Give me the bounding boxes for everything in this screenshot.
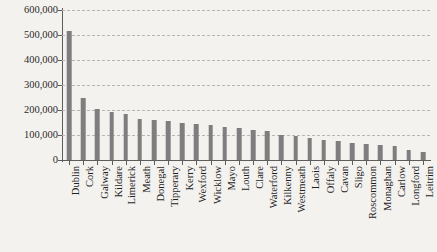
- bar-slot: [104, 10, 118, 160]
- x-axis-tick-mark: [239, 161, 240, 165]
- bar[interactable]: [378, 145, 383, 161]
- x-axis-label-slot: Meath: [133, 166, 147, 252]
- x-axis-label-slot: Cork: [76, 166, 90, 252]
- x-axis-tick-mark: [253, 161, 254, 165]
- bar-slot: [288, 10, 302, 160]
- bar-slot: [90, 10, 104, 160]
- x-axis-tick-mark: [182, 161, 183, 165]
- bar[interactable]: [180, 123, 185, 160]
- x-axis-tick-mark: [211, 161, 212, 165]
- x-axis-label-slot: Tipperary: [161, 166, 175, 252]
- x-axis-label-slot: Sligo: [345, 166, 359, 252]
- bar-series: [62, 10, 430, 160]
- bar-slot: [62, 10, 76, 160]
- y-axis-tick-label: 300,000: [24, 80, 58, 91]
- bar[interactable]: [392, 146, 397, 160]
- x-axis-label-slot: Kerry: [175, 166, 189, 252]
- bar[interactable]: [279, 135, 284, 160]
- bar-slot: [260, 10, 274, 160]
- bar-slot: [133, 10, 147, 160]
- bar-slot: [161, 10, 175, 160]
- bar[interactable]: [336, 141, 341, 160]
- x-axis-tick-mark: [69, 161, 70, 165]
- x-axis-tick-mark: [196, 161, 197, 165]
- bar-slot: [218, 10, 232, 160]
- x-axis-tick-mark: [267, 161, 268, 165]
- bar-slot: [147, 10, 161, 160]
- bar-slot: [345, 10, 359, 160]
- bar[interactable]: [208, 125, 213, 161]
- x-axis-label-slot: Donegal: [147, 166, 161, 252]
- x-axis-label-slot: Kildare: [104, 166, 118, 252]
- x-axis-label-slot: Leitrim: [416, 166, 430, 252]
- bar-slot: [402, 10, 416, 160]
- x-axis-tick-label: Leitrim: [423, 166, 437, 198]
- bar[interactable]: [67, 31, 72, 160]
- bar[interactable]: [109, 112, 114, 160]
- bar-slot: [373, 10, 387, 160]
- x-axis-label-slot: Roscommon: [359, 166, 373, 252]
- bar[interactable]: [81, 98, 86, 161]
- bar-slot: [388, 10, 402, 160]
- bar[interactable]: [265, 131, 270, 160]
- bar-slot: [232, 10, 246, 160]
- x-axis-label-slot: Kilkenny: [274, 166, 288, 252]
- x-axis-tick-mark: [154, 161, 155, 165]
- bar[interactable]: [166, 121, 171, 160]
- x-axis-label-slot: Longford: [402, 166, 416, 252]
- bar[interactable]: [138, 119, 143, 160]
- bar-slot: [175, 10, 189, 160]
- y-axis-ticks: 600,000500,000400,000300,000200,000100,0…: [0, 0, 58, 252]
- bar-slot: [274, 10, 288, 160]
- chart-page: 600,000500,000400,000300,000200,000100,0…: [0, 0, 437, 252]
- bar[interactable]: [293, 136, 298, 160]
- x-axis-tick-mark: [380, 161, 381, 165]
- bar[interactable]: [95, 109, 100, 160]
- bar[interactable]: [152, 120, 157, 160]
- x-axis-label-slot: Westmeath: [288, 166, 302, 252]
- bar-slot: [204, 10, 218, 160]
- x-axis-label-slot: Mayo: [218, 166, 232, 252]
- x-axis-labels: DublinCorkGalwayKildareLimerickMeathDone…: [62, 166, 430, 252]
- y-axis-tick-label: 500,000: [24, 30, 58, 41]
- bar-slot: [331, 10, 345, 160]
- bar[interactable]: [251, 130, 256, 160]
- x-axis-tick-mark: [338, 161, 339, 165]
- x-axis-tick-mark: [140, 161, 141, 165]
- x-axis-tick-mark: [310, 161, 311, 165]
- bar[interactable]: [322, 140, 327, 160]
- x-axis-tick-mark: [423, 161, 424, 165]
- x-axis-tick-mark: [324, 161, 325, 165]
- x-axis-tick-mark: [409, 161, 410, 165]
- x-axis-label-slot: Wicklow: [204, 166, 218, 252]
- y-axis-tick-label: 200,000: [24, 105, 58, 116]
- bar[interactable]: [364, 144, 369, 160]
- y-axis-tick-label: 400,000: [24, 55, 58, 66]
- x-axis-label-slot: Wexford: [189, 166, 203, 252]
- x-axis-tick-mark: [168, 161, 169, 165]
- x-axis-tick-mark: [352, 161, 353, 165]
- bar[interactable]: [350, 143, 355, 160]
- x-axis-label-slot: Cavan: [331, 166, 345, 252]
- x-axis-tick-mark: [281, 161, 282, 165]
- x-axis-tick-mark: [366, 161, 367, 165]
- bar[interactable]: [237, 128, 242, 160]
- x-axis-label-slot: Clare: [246, 166, 260, 252]
- x-axis-line: [62, 160, 431, 161]
- bar[interactable]: [406, 150, 411, 160]
- x-axis-tick-mark: [112, 161, 113, 165]
- bar[interactable]: [421, 152, 426, 160]
- x-axis-label-slot: Limerick: [119, 166, 133, 252]
- bar-slot: [416, 10, 430, 160]
- x-axis-tick-mark: [126, 161, 127, 165]
- bar[interactable]: [194, 124, 199, 160]
- x-axis-label-slot: Offaly: [317, 166, 331, 252]
- x-axis-tick-mark: [97, 161, 98, 165]
- bar-slot: [119, 10, 133, 160]
- x-axis-label-slot: Monaghan: [373, 166, 387, 252]
- x-axis-label-slot: Dublin: [62, 166, 76, 252]
- bar[interactable]: [123, 114, 128, 160]
- bar[interactable]: [307, 138, 312, 160]
- bar[interactable]: [222, 127, 227, 160]
- x-axis-label-slot: Galway: [90, 166, 104, 252]
